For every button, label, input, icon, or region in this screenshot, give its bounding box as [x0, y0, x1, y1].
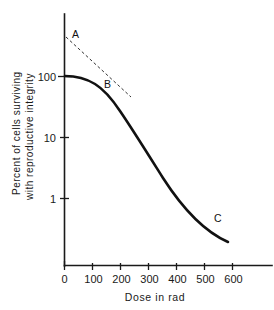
x-tick-label-600: 600: [224, 273, 242, 285]
x-tick-label-0: 0: [61, 273, 67, 285]
survival-curve-path: [65, 76, 228, 242]
x-tick-label-200: 200: [112, 273, 130, 285]
y-tick-label-100: 100: [38, 71, 56, 83]
x-tick-label-300: 300: [140, 273, 158, 285]
x-axis-title: Dose in rad: [125, 291, 185, 303]
axes-group: [65, 14, 273, 266]
chart-canvas: 100 10 1 0 100 200 300 400 500 600: [0, 0, 274, 310]
annotation-labels: A B C: [72, 28, 222, 224]
x-tick-label-500: 500: [196, 273, 214, 285]
x-tick-labels: 0 100 200 300 400 500 600: [61, 273, 242, 285]
y-tick-labels: 100 10 1: [38, 71, 56, 205]
annotation-label-c: C: [214, 212, 222, 224]
y-tick-label-10: 10: [44, 132, 56, 144]
y-axis-title-group: Percent of cells surviving with reproduc…: [11, 71, 35, 201]
y-axis-title-line2: with reproductive integrity: [24, 73, 35, 201]
survival-curve-figure: 100 10 1 0 100 200 300 400 500 600: [0, 0, 274, 310]
x-tick-label-400: 400: [168, 273, 186, 285]
y-tick-label-1: 1: [50, 193, 56, 205]
x-tick-label-100: 100: [84, 273, 102, 285]
annotation-label-b: B: [104, 78, 111, 90]
y-axis-title-line1: Percent of cells surviving: [11, 71, 22, 195]
annotation-label-a: A: [72, 28, 79, 40]
